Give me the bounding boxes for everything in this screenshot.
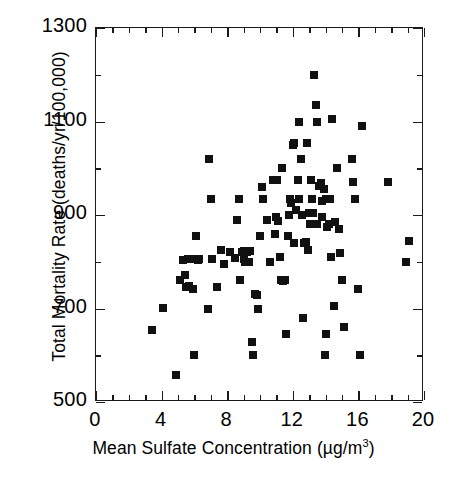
x-tick-bottom <box>424 391 425 400</box>
x-tick-bottom <box>391 395 392 400</box>
data-point <box>274 217 282 225</box>
data-point <box>273 176 281 184</box>
x-tick-top <box>358 28 359 37</box>
data-point <box>294 176 302 184</box>
data-point <box>356 351 364 359</box>
x-tick-top <box>276 28 277 33</box>
data-point <box>208 255 216 263</box>
y-tick-right <box>413 402 422 403</box>
x-tick-bottom <box>326 395 327 400</box>
data-point <box>308 195 316 203</box>
x-tick-label: 8 <box>196 408 256 431</box>
x-tick-bottom <box>129 395 130 400</box>
x-tick-bottom <box>211 395 212 400</box>
data-point <box>266 258 274 266</box>
y-tick-right <box>417 262 422 263</box>
y-tick-right <box>413 215 422 216</box>
data-point <box>335 225 343 233</box>
x-tick-top <box>408 28 409 33</box>
data-point <box>297 155 305 163</box>
data-point <box>318 213 326 221</box>
data-point <box>313 220 321 228</box>
y-tick-left <box>96 215 105 216</box>
data-point <box>307 176 315 184</box>
data-point <box>226 248 234 256</box>
x-tick-top <box>244 28 245 33</box>
y-tick-left <box>96 355 101 356</box>
y-tick-left <box>96 402 105 403</box>
data-point <box>248 338 256 346</box>
data-point <box>340 323 348 331</box>
x-tick-bottom <box>96 391 97 400</box>
data-point <box>290 139 298 147</box>
y-tick-left <box>96 262 101 263</box>
data-point <box>330 302 338 310</box>
x-tick-top <box>326 28 327 33</box>
x-tick-bottom <box>358 391 359 400</box>
data-point <box>309 209 317 217</box>
x-tick-top <box>178 28 179 33</box>
data-point <box>246 247 254 255</box>
data-point <box>240 255 248 263</box>
data-point <box>326 195 334 203</box>
data-point <box>333 164 341 172</box>
data-point <box>304 246 312 254</box>
x-tick-bottom <box>375 395 376 400</box>
x-tick-top <box>194 28 195 33</box>
data-point <box>290 239 298 247</box>
data-point <box>303 139 311 147</box>
data-point <box>217 246 225 254</box>
data-point <box>405 237 413 245</box>
data-point <box>278 164 286 172</box>
data-point <box>295 195 303 203</box>
x-axis-title-tail: ) <box>369 438 375 458</box>
data-point <box>276 253 284 261</box>
data-point <box>189 285 197 293</box>
y-tick-right <box>413 122 422 123</box>
x-tick-bottom <box>260 395 261 400</box>
data-point <box>190 351 198 359</box>
data-point <box>236 276 244 284</box>
x-tick-bottom <box>227 391 228 400</box>
data-point <box>148 326 156 334</box>
data-point <box>299 314 307 322</box>
y-tick-label: 700 <box>17 295 87 318</box>
data-point <box>271 230 279 238</box>
y-tick-right <box>413 309 422 310</box>
data-point <box>181 271 189 279</box>
y-tick-left <box>96 309 105 310</box>
data-point <box>159 304 167 312</box>
data-point <box>321 351 329 359</box>
x-tick-top <box>293 28 294 37</box>
y-tick-left <box>96 28 105 29</box>
data-point <box>282 330 290 338</box>
x-tick-bottom <box>244 395 245 400</box>
x-tick-top <box>112 28 113 33</box>
data-point <box>384 178 392 186</box>
x-tick-bottom <box>408 395 409 400</box>
x-tick-top <box>162 28 163 37</box>
data-point <box>354 285 362 293</box>
y-tick-label: 900 <box>17 201 87 224</box>
x-tick-top <box>129 28 130 33</box>
x-tick-label: 0 <box>65 408 125 431</box>
x-tick-top <box>145 28 146 33</box>
y-tick-right <box>417 75 422 76</box>
x-tick-bottom <box>162 391 163 400</box>
x-tick-bottom <box>342 395 343 400</box>
y-tick-left <box>96 168 101 169</box>
data-point <box>328 115 336 123</box>
y-tick-right <box>417 168 422 169</box>
data-point <box>320 185 328 193</box>
data-point <box>190 255 198 263</box>
data-point <box>258 183 266 191</box>
data-point <box>172 371 180 379</box>
data-point <box>302 238 310 246</box>
x-tick-bottom <box>309 395 310 400</box>
x-tick-label: 20 <box>393 408 453 431</box>
x-tick-top <box>227 28 228 37</box>
data-point <box>205 155 213 163</box>
data-point <box>259 195 267 203</box>
x-axis-title-main: Mean Sulfate Concentration (µg/m <box>92 438 362 458</box>
data-point <box>249 351 257 359</box>
